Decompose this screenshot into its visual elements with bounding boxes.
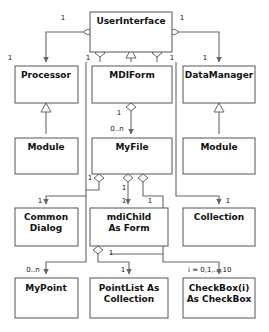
multiplicity-label: 0..n	[110, 125, 123, 133]
class-module-right-label: Module	[200, 142, 237, 152]
class-datamanager[interactable]: DataManager	[183, 66, 255, 103]
class-module-left[interactable]: Module	[15, 138, 78, 174]
multiplicity-label: 1	[109, 249, 113, 257]
class-myfile-label: MyFile	[115, 142, 148, 152]
class-commondialog-label-line2: Dialog	[30, 223, 62, 233]
class-mdichild-label-line2: As Form	[108, 223, 149, 233]
generalization-triangle-processor-module	[41, 103, 51, 112]
multiplicity-label: 1	[226, 197, 230, 205]
class-processor-label: Processor	[21, 70, 72, 80]
class-collection[interactable]: Collection	[183, 208, 255, 246]
class-mypoint[interactable]: MyPoint	[15, 278, 78, 318]
edge-trunk-right-to-collection	[176, 190, 219, 204]
multiplicity-label: 1	[117, 109, 121, 117]
class-mypoint-label: MyPoint	[25, 283, 67, 293]
class-mdichild-label-line1: mdiChild	[107, 212, 152, 222]
class-myfile[interactable]: MyFile	[92, 138, 172, 174]
multiplicity-label: 1	[121, 266, 125, 274]
multiplicity-label: 1	[86, 54, 90, 62]
class-pointlist-label-line1: PointList As	[99, 283, 160, 293]
class-collection-label: Collection	[194, 212, 244, 222]
class-datamanager-label: DataManager	[185, 70, 254, 80]
class-checkbox-label-line1: CheckBox(i)	[189, 283, 250, 293]
multiplicity-label: 1	[8, 54, 12, 62]
class-userinterface-label: UserInterface	[96, 16, 165, 26]
class-module-left-label: Module	[27, 142, 64, 152]
multiplicity-label: 0..n	[26, 266, 39, 274]
class-mdiform[interactable]: MDIForm	[92, 66, 172, 103]
aggregation-diamond-myfile-commondialog	[94, 174, 104, 182]
multiplicity-label: 1	[122, 184, 126, 192]
class-module-right[interactable]: Module	[183, 138, 255, 174]
class-pointlist[interactable]: PointList As Collection	[90, 278, 168, 318]
aggregation-diamond-mdichild-pointlist	[93, 246, 103, 254]
multiplicity-label: 1	[170, 54, 174, 62]
class-checkbox[interactable]: CheckBox(i) As CheckBox	[183, 278, 255, 318]
edge-userinterface-datamanager	[179, 32, 219, 62]
edge-myfile-commondialog	[86, 182, 99, 190]
class-checkbox-label-line2: As CheckBox	[187, 294, 252, 304]
generalization-triangle-datamanager-module	[214, 103, 224, 112]
multiplicity-label: 1	[203, 54, 207, 62]
class-pointlist-label-line2: Collection	[104, 294, 154, 304]
edge-trunk-left-to-commondialog	[46, 186, 86, 204]
class-mdichild[interactable]: mdiChild As Form	[90, 208, 168, 246]
aggregation-diamond-myfile-mdichild	[123, 174, 133, 182]
class-userinterface[interactable]: UserInterface	[90, 12, 172, 52]
edge-userinterface-processor	[46, 32, 83, 62]
multiplicity-label: 1	[180, 14, 184, 22]
multiplicity-label: 1	[148, 197, 152, 205]
multiplicity-label: i = 0,1,...,10	[188, 266, 231, 274]
class-mdiform-label: MDIForm	[109, 70, 155, 80]
multiplicity-label: 1	[122, 197, 126, 205]
multiplicity-label: 1	[61, 14, 65, 22]
aggregation-diamond-mdiform-myfile	[126, 103, 136, 111]
class-processor[interactable]: Processor	[15, 66, 78, 103]
diagram-canvas: UserInterface Processor MDIForm DataMana…	[0, 0, 269, 332]
aggregation-diamond-myfile-right	[138, 174, 148, 182]
class-commondialog-label-line1: Common	[24, 212, 68, 222]
uml-class-diagram: UserInterface Processor MDIForm DataMana…	[0, 0, 269, 332]
multiplicity-label: 1	[38, 197, 42, 205]
class-commondialog[interactable]: Common Dialog	[15, 208, 78, 246]
multiplicity-label: 1	[88, 174, 92, 182]
